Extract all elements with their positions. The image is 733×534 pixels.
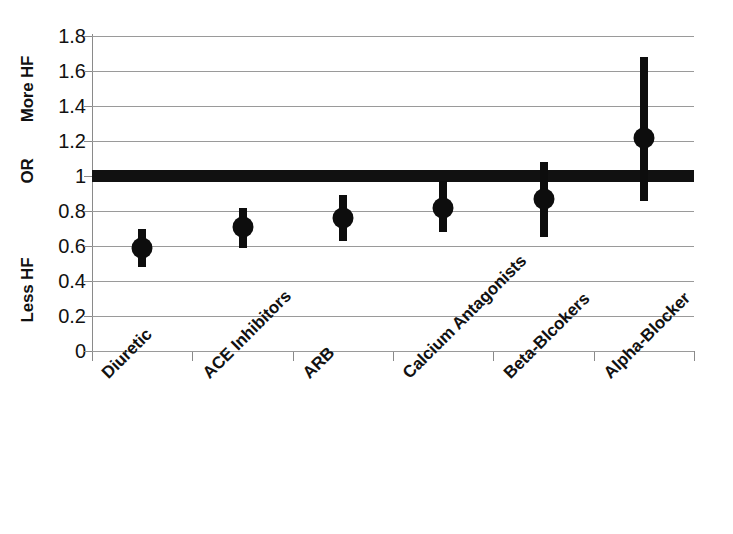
y-tick-label-0.4: 0.4 — [40, 271, 86, 291]
point-marker-diuretic — [132, 237, 153, 258]
x-tick-mark-5 — [594, 352, 595, 361]
plot-area — [92, 36, 694, 351]
y-tick-mark-1.4 — [84, 106, 92, 107]
point-marker-alpha-blocker — [633, 127, 654, 148]
x-tick-mark-6 — [694, 352, 695, 361]
y-tick-mark-0.4 — [84, 281, 92, 282]
x-tick-mark-2 — [293, 352, 294, 361]
gridline-1.8 — [92, 36, 694, 37]
forest-plot-figure: More HFORLess HF 00.20.40.60.811.21.41.6… — [0, 0, 733, 534]
gridline-0.8 — [92, 211, 694, 212]
gridline-0.2 — [92, 316, 694, 317]
x-tick-mark-4 — [493, 352, 494, 361]
gridline-1.2 — [92, 141, 694, 142]
y-tick-label-0.8: 0.8 — [40, 201, 86, 221]
y-tick-label-0: 0 — [40, 341, 86, 361]
y-tick-label-1.8: 1.8 — [40, 26, 86, 46]
gridline-1.6 — [92, 71, 694, 72]
y-tick-mark-0 — [84, 351, 92, 352]
x-tick-mark-0 — [92, 352, 93, 361]
y-tick-mark-0.2 — [84, 316, 92, 317]
y-tick-mark-1 — [84, 176, 92, 177]
y-tick-label-1.4: 1.4 — [40, 96, 86, 116]
y-tick-mark-0.8 — [84, 211, 92, 212]
point-marker-beta-blcokers — [533, 188, 554, 209]
y-tick-label-1.2: 1.2 — [40, 131, 86, 151]
gridline-1.4 — [92, 106, 694, 107]
y-tick-label-0.6: 0.6 — [40, 236, 86, 256]
y-tick-label-1: 1 — [40, 166, 86, 186]
y-tick-mark-1.2 — [84, 141, 92, 142]
y-tick-mark-1.6 — [84, 71, 92, 72]
point-marker-arb — [332, 208, 353, 229]
y-tick-label-0.2: 0.2 — [40, 306, 86, 326]
gridline-0.6 — [92, 246, 694, 247]
x-tick-mark-1 — [192, 352, 193, 361]
x-tick-mark-3 — [393, 352, 394, 361]
y-tick-mark-1.8 — [84, 36, 92, 37]
gridline-0 — [92, 351, 694, 352]
point-marker-ace-inhibitors — [232, 216, 253, 237]
point-marker-calcium-antagonists — [433, 197, 454, 218]
gridline-0.4 — [92, 281, 694, 282]
y-tick-label-1.6: 1.6 — [40, 61, 86, 81]
y-tick-mark-0.6 — [84, 246, 92, 247]
y-axis-tick-label-group: 00.20.40.60.811.21.41.61.8 — [30, 0, 86, 534]
null-reference-band — [92, 170, 694, 182]
